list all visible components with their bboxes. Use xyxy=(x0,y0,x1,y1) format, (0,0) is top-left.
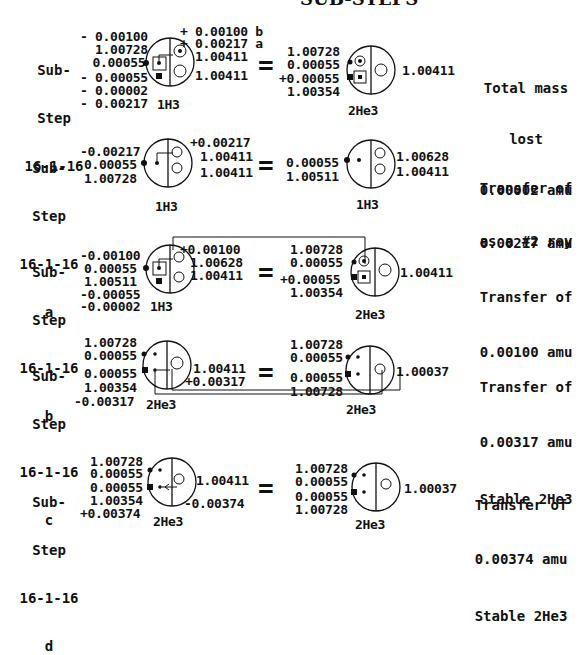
value: 0.00055 xyxy=(84,349,137,362)
atom-2he3-diagram xyxy=(350,247,400,297)
substep-line: Step xyxy=(14,416,84,432)
value: 1.00411 xyxy=(402,64,455,77)
value: 0.00055 xyxy=(90,467,143,480)
value: 1.00037 xyxy=(396,365,449,378)
value: 1.00037 xyxy=(404,482,457,495)
substep-line: Step xyxy=(14,312,84,328)
value: 0.00055 xyxy=(84,367,137,380)
step-note: Transfer of 0.00374 amu Stable 2He3 xyxy=(465,463,577,642)
equals-sign: = xyxy=(258,362,274,382)
value: 1.00411 xyxy=(400,266,453,279)
value: 1.00354 xyxy=(84,381,137,394)
atom-label: 1H3 xyxy=(155,200,178,213)
value: 0.00055 xyxy=(290,256,343,269)
value: - 0.00217 xyxy=(80,97,148,110)
value: 1.00411 xyxy=(190,269,243,282)
diagram-title: SUB-STEPS xyxy=(300,0,418,9)
atom-label: 2He3 xyxy=(153,515,183,528)
value: 1.00354 xyxy=(290,286,343,299)
substep-line: Sub- xyxy=(14,264,84,280)
substep-line: Sub- xyxy=(14,160,84,176)
substep-id: 16-1-16 xyxy=(14,590,84,606)
value: 1.00728 xyxy=(290,385,343,398)
note-line: Transfer of xyxy=(470,180,582,197)
value: 0.00055 xyxy=(286,156,339,169)
value: 0.00055 xyxy=(287,58,340,71)
value: 1.00728 xyxy=(295,503,348,516)
substep-label: Sub- Step 16-1-16 d xyxy=(14,462,84,655)
value: -0.00317 xyxy=(74,395,134,408)
note-line: 0.00374 amu xyxy=(465,551,577,568)
atom-label: 2He3 xyxy=(355,518,385,531)
atom-2he3-diagram xyxy=(345,345,395,395)
value: 1.00411 xyxy=(196,474,249,487)
value: 0.00055 xyxy=(290,371,343,384)
value: 1.00411 xyxy=(200,166,253,179)
value: 1.00411 xyxy=(200,150,253,163)
value: 1.00411 xyxy=(195,50,248,63)
note-line: Transfer of xyxy=(470,289,582,306)
value: 0.00055 xyxy=(85,56,145,69)
value: +0.00374 xyxy=(80,507,140,520)
substep-suffix: d xyxy=(14,638,84,654)
equals-sign: = xyxy=(258,262,274,282)
atom-label: 2He3 xyxy=(348,104,378,117)
value: +0.00317 xyxy=(185,375,245,388)
atom-label: 2He3 xyxy=(355,308,385,321)
value: 1.00728 xyxy=(84,172,137,185)
value: 0.00055 xyxy=(295,475,348,488)
substep-line: Step xyxy=(14,208,84,224)
equals-sign: = xyxy=(258,478,274,498)
substep-line: Step xyxy=(14,542,84,558)
note-line: 0.00217 amu xyxy=(470,235,582,252)
value: 0.00055 xyxy=(84,158,137,171)
value: 1.00411 xyxy=(195,69,248,82)
value: -0.00374 xyxy=(184,497,244,510)
note-line: Transfer of xyxy=(470,379,582,396)
value: 0.00055 xyxy=(290,351,343,364)
atom-1h3-diagram xyxy=(143,138,193,188)
substep-line: Sub- xyxy=(14,368,84,384)
step-note: Transfer of 0.00217 amu xyxy=(470,146,582,269)
atom-2he3-diagram xyxy=(351,462,401,512)
value: 1.00354 xyxy=(287,85,340,98)
equals-sign: = xyxy=(258,155,274,175)
value: +0.00217 xyxy=(190,136,250,149)
atom-label: 1H3 xyxy=(150,300,173,313)
substep-line: Sub- xyxy=(14,494,84,510)
value: -0.00002 xyxy=(80,300,140,313)
atom-label: 2He3 xyxy=(346,403,376,416)
atom-2he3-diagram xyxy=(346,45,396,95)
note-line: Stable 2He3 xyxy=(465,608,577,625)
atom-label: 1H3 xyxy=(356,198,379,211)
value: 1.00511 xyxy=(286,170,339,183)
note-line: Total mass xyxy=(470,80,582,97)
note-line: Transfer of xyxy=(465,497,577,514)
equals-sign: = xyxy=(258,55,274,75)
atom-label: 1H3 xyxy=(157,98,180,111)
atom-1h3-diagram xyxy=(346,139,396,189)
note-line: 0.00317 amu xyxy=(470,434,582,451)
atom-label: 2He3 xyxy=(146,398,176,411)
value: 1.00411 xyxy=(396,165,449,178)
value: 1.00628 xyxy=(396,150,449,163)
substep-line: Step xyxy=(14,110,94,126)
